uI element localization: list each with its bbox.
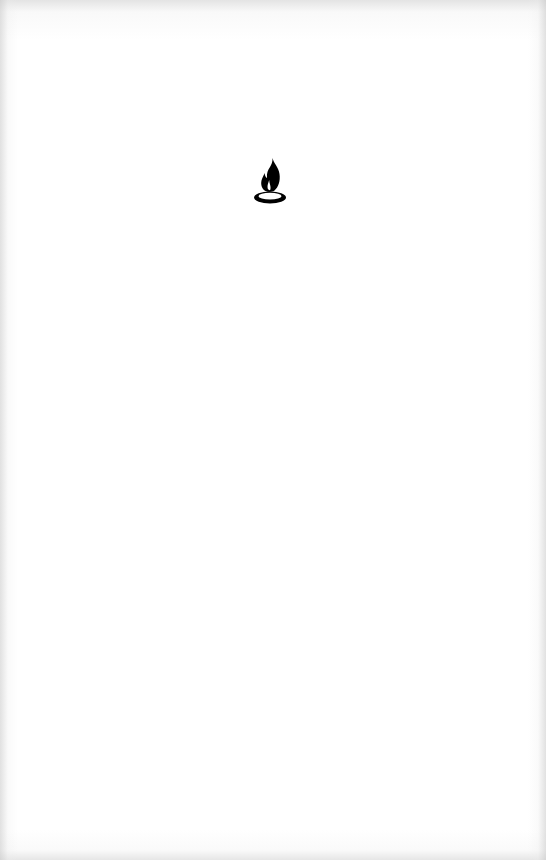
edge-vignette bbox=[0, 0, 546, 860]
app-logo bbox=[252, 156, 288, 206]
flame-on-ring-icon bbox=[252, 156, 288, 206]
splash-screen bbox=[0, 0, 546, 860]
